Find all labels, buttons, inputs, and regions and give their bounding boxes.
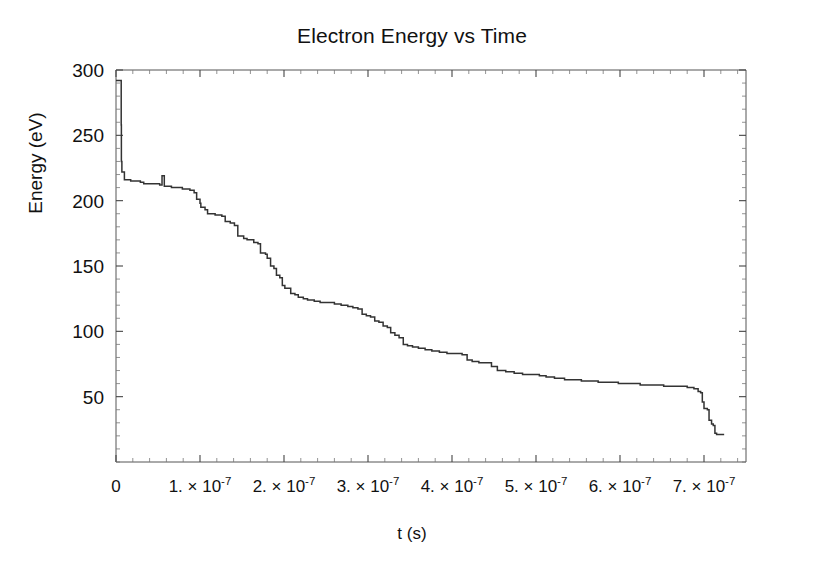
x-tick-label: 0: [111, 477, 120, 496]
y-tick-label: 200: [72, 191, 104, 212]
x-tick-label: 6. × 10-7: [589, 475, 652, 496]
y-tick-label: 50: [83, 387, 104, 408]
axis-tick-labels: 5010015020025030001. × 10-72. × 10-73. ×…: [72, 60, 735, 496]
data-series: [116, 80, 724, 434]
y-tick-label: 300: [72, 60, 104, 81]
x-tick-label: 4. × 10-7: [421, 475, 484, 496]
axis-ticks: [116, 70, 746, 462]
y-tick-label: 150: [72, 256, 104, 277]
chart-figure: Electron Energy vs Time Energy (eV) t (s…: [0, 0, 824, 566]
x-tick-label: 1. × 10-7: [169, 475, 232, 496]
x-tick-label: 5. × 10-7: [505, 475, 568, 496]
y-tick-label: 250: [72, 125, 104, 146]
axes-group: [116, 70, 746, 462]
x-tick-label: 2. × 10-7: [253, 475, 316, 496]
y-tick-label: 100: [72, 321, 104, 342]
plot-area: 5010015020025030001. × 10-72. × 10-73. ×…: [0, 0, 824, 566]
x-tick-label: 3. × 10-7: [337, 475, 400, 496]
series-line: [116, 80, 724, 434]
x-tick-label: 7. × 10-7: [673, 475, 736, 496]
